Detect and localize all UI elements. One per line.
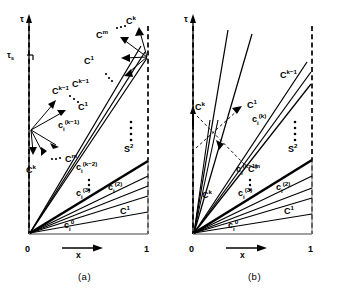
label-ck-lower-b: Ck bbox=[202, 188, 213, 200]
vertical-dots-a bbox=[130, 121, 133, 142]
label-ck-minus-1-right-a: Ck−1 bbox=[72, 77, 90, 89]
x-tick-left-label-b: 0 bbox=[189, 244, 194, 254]
x-axis-label: x bbox=[76, 250, 81, 260]
panel-a-canvas: τ τs 0 1 x Ck−1 C1 Cm Ck Ck Cm C1 Ck−1 c… bbox=[0, 0, 169, 288]
x-tick-right-label: 1 bbox=[144, 244, 149, 254]
caption-a: (a) bbox=[0, 271, 169, 282]
tau-axis-label-b: τ bbox=[184, 14, 188, 24]
label-ck-left-a: Ck bbox=[26, 163, 37, 175]
tau-axis-label: τ bbox=[20, 14, 24, 24]
label-c1-bottom-b: C1 bbox=[284, 204, 295, 216]
tau-axis-arrowhead bbox=[26, 14, 32, 23]
label-shock-s2-b: S2 bbox=[288, 142, 298, 154]
label-ci-k-minus-2-a: ci(k−2) bbox=[76, 160, 97, 174]
x-tick-right-label-b: 1 bbox=[308, 244, 313, 254]
label-ck-minus-1-left-a: Ck−1 bbox=[52, 84, 70, 96]
x-axis-arrowhead-b bbox=[257, 245, 267, 252]
label-ck-minus-1-b: Ck−1 bbox=[280, 68, 298, 80]
x-tick-left-label: 0 bbox=[25, 244, 30, 254]
label-cm-right-a: Cm bbox=[96, 28, 109, 40]
right-cluster-dot-leaders-a bbox=[105, 25, 126, 82]
label-c1-bottom-a: C1 bbox=[120, 204, 131, 216]
panel-b: τ 0 1 x Ck C1 Cm Ck Ck−1 ci(k) ci(k−1) c… bbox=[170, 0, 339, 288]
tau-s-label: τs bbox=[7, 50, 15, 61]
label-c1-b: C1 bbox=[247, 98, 258, 110]
label-ci-k-b: ci(k) bbox=[252, 112, 266, 126]
label-c1-left-a: C1 bbox=[78, 100, 89, 112]
dashed-crossing-lines-b bbox=[196, 110, 244, 164]
label-shock-s2-a: S2 bbox=[124, 142, 134, 154]
label-ci-k-minus-1-a: ci(k−1) bbox=[58, 118, 79, 132]
x-axis-label-b: x bbox=[240, 250, 245, 260]
label-ck-right-a: Ck bbox=[126, 14, 137, 26]
panel-b-canvas: τ 0 1 x Ck C1 Cm Ck Ck−1 ci(k) ci(k−1) c… bbox=[170, 0, 339, 288]
figure-characteristics-diagram: τ τs 0 1 x Ck−1 C1 Cm Ck Ck Cm C1 Ck−1 c… bbox=[0, 0, 339, 288]
caption-b: (b) bbox=[170, 271, 339, 282]
x-axis-arrowhead bbox=[93, 245, 103, 252]
panel-a: τ τs 0 1 x Ck−1 C1 Cm Ck Ck Cm C1 Ck−1 c… bbox=[0, 0, 169, 288]
vertical-dots-b bbox=[294, 121, 297, 142]
label-ck-upper-b: Ck bbox=[195, 100, 206, 112]
label-ci-0-b: ci0 bbox=[228, 218, 239, 232]
label-c1-right-a: C1 bbox=[84, 54, 95, 66]
left-cluster-dot-leaders-a bbox=[51, 95, 79, 160]
tau-axis-arrowhead-b bbox=[190, 14, 196, 23]
